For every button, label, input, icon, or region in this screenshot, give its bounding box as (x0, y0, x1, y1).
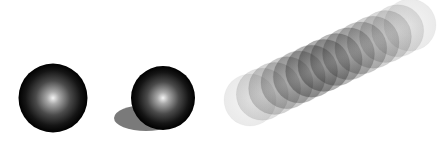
scene (0, 0, 443, 143)
ghost-sphere (384, 0, 436, 51)
motion-blur-streak (224, 0, 436, 126)
sphere-plain (19, 64, 88, 133)
sphere-with-shadow (114, 66, 195, 131)
